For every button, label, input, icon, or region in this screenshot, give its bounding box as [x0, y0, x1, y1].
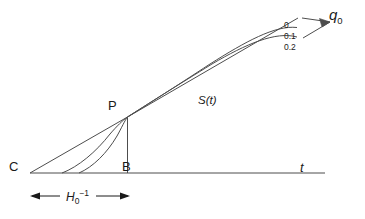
label-hubble-time-symbol: H [66, 190, 75, 204]
label-hubble-time: H0−1 [66, 189, 89, 206]
series-label-q0-01: 0.1 [284, 32, 296, 41]
label-axis-t: t [300, 161, 304, 174]
hubble-time-right-arrowhead [120, 193, 130, 200]
cosmology-scale-factor-figure: C B P t S(t) q0 H0−1 0 0.1 0.2 [0, 0, 365, 219]
series-label-q0-02: 0.2 [284, 43, 296, 52]
hubble-time-left-arrowhead [30, 193, 40, 200]
series-label-q0-0: 0 [284, 21, 289, 30]
label-parameter-q0: q0 [329, 7, 343, 26]
figure-canvas [0, 0, 365, 219]
label-point-B: B [122, 160, 131, 173]
label-parameter-q0-subscript: 0 [337, 15, 342, 26]
label-point-C: C [9, 160, 18, 173]
label-curve-st: S(t) [198, 95, 217, 107]
label-point-P: P [108, 99, 117, 112]
curve-q0-01 [62, 27, 297, 173]
label-hubble-time-superscript: −1 [79, 188, 89, 198]
